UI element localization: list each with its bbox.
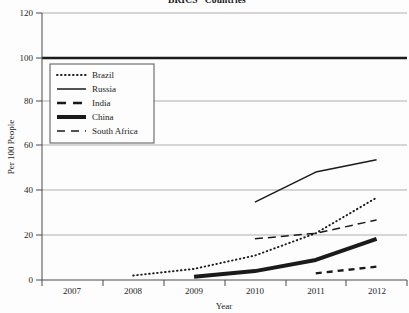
legend-label-brazil: Brazil — [92, 70, 114, 80]
y-tick-label-80: 80 — [24, 96, 34, 106]
x-axis-title: Year — [216, 301, 233, 311]
legend-label-china: China — [92, 112, 114, 122]
x-axis-ticks — [42, 280, 407, 286]
plot-background — [42, 13, 407, 280]
line-chart-svg: 120 100 80 60 40 20 0 2007 2008 2009 201… — [0, 0, 409, 313]
legend-label-india: India — [92, 98, 111, 108]
y-tick-label-120: 120 — [20, 8, 34, 18]
chart-container: “BRICS” Countries 120 1 — [0, 0, 409, 313]
legend-label-south-africa: South Africa — [92, 126, 138, 136]
x-tick-label-2010: 2010 — [246, 286, 265, 296]
y-tick-label-0: 0 — [29, 275, 34, 285]
y-axis-ticks — [36, 13, 42, 280]
x-tick-label-2007: 2007 — [63, 286, 82, 296]
chart-legend[interactable]: Brazil Russia India China South Africa — [50, 64, 154, 143]
x-tick-label-2011: 2011 — [307, 286, 325, 296]
x-tick-label-2008: 2008 — [124, 286, 143, 296]
y-tick-label-20: 20 — [24, 230, 34, 240]
y-tick-label-60: 60 — [24, 140, 34, 150]
y-tick-label-100: 100 — [20, 53, 34, 63]
y-tick-label-40: 40 — [24, 185, 34, 195]
x-tick-label-2012: 2012 — [368, 286, 386, 296]
legend-label-russia: Russia — [92, 84, 116, 94]
x-tick-label-2009: 2009 — [185, 286, 204, 296]
y-axis-title: Per 100 People — [6, 120, 16, 175]
